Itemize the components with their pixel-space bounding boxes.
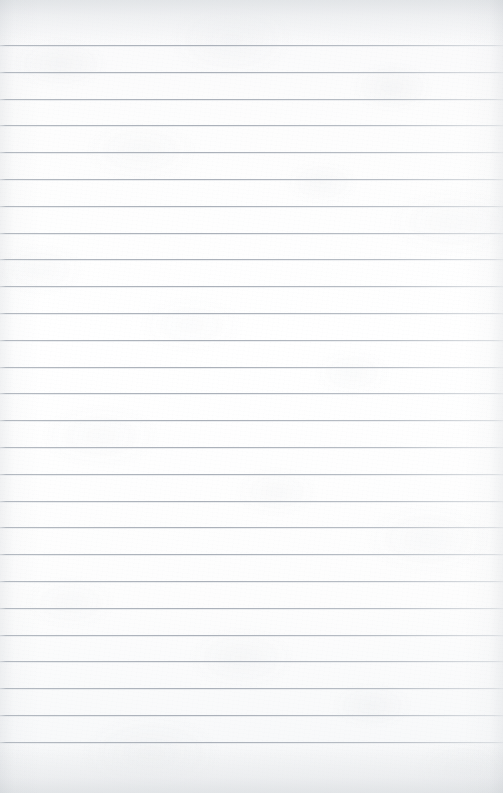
ruled-lines-group (0, 0, 503, 793)
rule-line (0, 447, 503, 448)
rule-line (0, 688, 503, 689)
rule-line (0, 340, 503, 341)
rule-line (0, 125, 503, 126)
rule-line (0, 99, 503, 100)
rule-line (0, 554, 503, 555)
rule-line (0, 393, 503, 394)
rule-line (0, 313, 503, 314)
notebook-page (0, 0, 503, 793)
rule-line (0, 608, 503, 609)
rule-line (0, 233, 503, 234)
rule-line (0, 152, 503, 153)
rule-line (0, 474, 503, 475)
rule-line (0, 742, 503, 743)
rule-line (0, 259, 503, 260)
rule-line (0, 179, 503, 180)
rule-line (0, 661, 503, 662)
rule-line (0, 45, 503, 46)
rule-line (0, 72, 503, 73)
rule-line (0, 715, 503, 716)
rule-line (0, 367, 503, 368)
rule-line (0, 286, 503, 287)
rule-line (0, 420, 503, 421)
rule-line (0, 501, 503, 502)
rule-line (0, 581, 503, 582)
rule-line (0, 527, 503, 528)
rule-line (0, 635, 503, 636)
rule-line (0, 206, 503, 207)
